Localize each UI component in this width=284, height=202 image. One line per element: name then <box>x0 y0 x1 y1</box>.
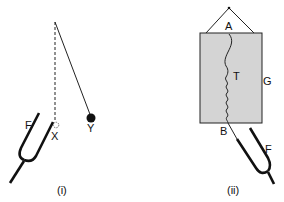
caption-ii: (ii) <box>227 184 239 196</box>
suspension-point <box>228 7 231 10</box>
label-f-ii: F <box>265 143 272 155</box>
ball-x <box>53 122 59 128</box>
label-y: Y <box>87 122 95 134</box>
panel-i: F X Y (i) <box>10 22 96 196</box>
label-f-i: F <box>25 119 32 131</box>
tuning-fork-icon <box>237 128 274 184</box>
label-t: T <box>233 70 240 82</box>
label-a: A <box>225 20 233 32</box>
caption-i: (i) <box>57 184 67 196</box>
label-b: B <box>220 125 227 137</box>
connecting-string <box>228 123 237 139</box>
panel-ii: A T G B F (ii) <box>200 7 274 196</box>
pendulum-string <box>55 22 91 117</box>
label-g: G <box>263 75 272 87</box>
figure: F X Y (i) A T G B F (ii) <box>0 0 284 202</box>
label-x: X <box>51 130 59 142</box>
